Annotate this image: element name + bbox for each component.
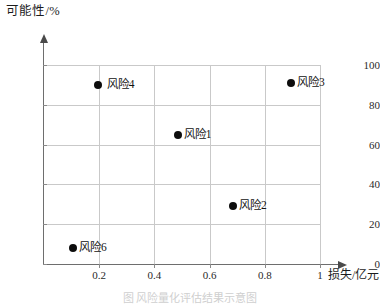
- x-tick-label: 0.2: [79, 270, 119, 281]
- x-tick-label: 0.6: [190, 270, 230, 281]
- y-axis-arrow-icon: [40, 34, 48, 43]
- y-tick-mark: [43, 224, 47, 225]
- y-axis-title: 可能性/%: [6, 4, 60, 18]
- data-point-marker: [287, 79, 295, 87]
- plot-area: 风险4风险3风险1风险2风险6: [44, 65, 320, 264]
- gridline-horizontal: [44, 184, 320, 185]
- data-point-label: 风险4: [107, 77, 135, 92]
- y-tick-mark: [43, 145, 47, 146]
- x-tick-mark: [154, 264, 155, 268]
- y-tick-label: 20: [348, 219, 380, 230]
- y-tick-mark: [43, 264, 47, 265]
- risk-scatter-figure: 可能性/% 风险4风险3风险1风险2风险6 020406080100 0.20.…: [0, 0, 380, 304]
- x-tick-mark: [320, 264, 321, 268]
- gridline-vertical: [320, 65, 321, 264]
- y-tick-label: 60: [348, 140, 380, 151]
- x-tick-label: 0.4: [134, 270, 174, 281]
- gridline-horizontal: [44, 65, 320, 66]
- data-point-marker: [174, 131, 182, 139]
- y-tick-label: 100: [348, 60, 380, 71]
- y-tick-label: 80: [348, 100, 380, 111]
- x-tick-mark: [99, 264, 100, 268]
- y-tick-mark: [43, 105, 47, 106]
- gridline-horizontal: [44, 105, 320, 106]
- figure-caption: 图 风险量化评估结果示意图: [0, 292, 380, 304]
- y-tick-label: 40: [348, 179, 380, 190]
- gridline-horizontal: [44, 145, 320, 146]
- gridline-vertical: [210, 65, 211, 264]
- data-point-label: 风险6: [79, 240, 107, 255]
- gridline-horizontal: [44, 224, 320, 225]
- data-point-marker: [94, 81, 102, 89]
- gridline-vertical: [99, 65, 100, 264]
- x-axis-line: [43, 264, 340, 265]
- y-tick-mark: [43, 184, 47, 185]
- y-tick-mark: [43, 65, 47, 66]
- gridline-vertical: [265, 65, 266, 264]
- x-axis-title: 损失/亿元: [328, 268, 379, 282]
- data-point-marker: [69, 244, 77, 252]
- data-point-marker: [229, 202, 237, 210]
- x-tick-mark: [265, 264, 266, 268]
- data-point-label: 风险3: [297, 75, 325, 90]
- gridline-vertical: [154, 65, 155, 264]
- x-tick-label: 0.8: [245, 270, 285, 281]
- data-point-label: 风险1: [184, 127, 212, 142]
- x-tick-mark: [210, 264, 211, 268]
- data-point-label: 风险2: [239, 198, 267, 213]
